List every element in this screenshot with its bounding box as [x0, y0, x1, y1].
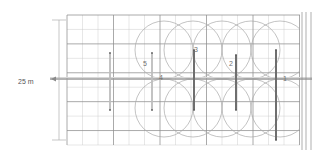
dimension-label: 25 m	[18, 78, 34, 85]
technical-drawing-canvas: 1234525 m	[0, 0, 330, 159]
bar-node-bottom-4	[151, 109, 153, 111]
element-label-3: 3	[194, 46, 198, 53]
bar-node-bottom-2	[235, 109, 237, 111]
element-label-4: 4	[159, 74, 163, 81]
element-label-1: 1	[283, 75, 287, 82]
bar-node-top-1	[275, 49, 277, 51]
element-label-2: 2	[229, 60, 233, 67]
bar-node-top-5	[109, 52, 111, 54]
bar-node-bottom-1	[275, 139, 277, 141]
bar-node-top-4	[151, 52, 153, 54]
bar-node-bottom-3	[193, 109, 195, 111]
bar-node-top-2	[235, 54, 237, 56]
element-label-5: 5	[143, 60, 147, 67]
bar-node-bottom-5	[109, 109, 111, 111]
